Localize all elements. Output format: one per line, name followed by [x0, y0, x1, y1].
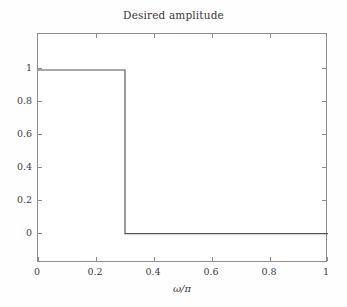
ytick-label: 0.2	[4, 194, 32, 205]
ytick-label: 0.8	[4, 95, 32, 106]
xtick-label: 0.6	[203, 266, 218, 277]
ytick-label: 1	[4, 62, 32, 73]
xtick-label: 0.2	[87, 266, 102, 277]
plot-area	[37, 33, 327, 262]
xtick-label: 1	[323, 266, 329, 277]
xtick-label: 0	[34, 266, 40, 277]
step-polyline	[38, 70, 328, 234]
ytick-label: 0.4	[4, 161, 32, 172]
x-axis-label: ω/π	[37, 283, 327, 294]
figure-desired-amplitude: Desired amplitude 0 0.2 0.	[0, 0, 347, 307]
ytick-label: 0	[4, 227, 32, 238]
xtick-label: 0.8	[261, 266, 276, 277]
xtick-label: 0.4	[145, 266, 160, 277]
chart-title: Desired amplitude	[0, 9, 347, 21]
data-series-desired-amplitude	[38, 34, 328, 263]
ytick-label: 0.6	[4, 128, 32, 139]
